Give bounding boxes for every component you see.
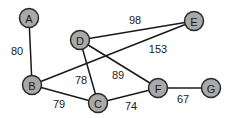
node-label: A <box>25 13 33 25</box>
node-a: A <box>20 9 39 28</box>
edge-weight-label: 67 <box>177 93 189 105</box>
edge-weight-label: 89 <box>112 69 124 81</box>
node-label: E <box>190 16 197 28</box>
edge-weight-label: 79 <box>53 98 65 110</box>
node-e: E <box>185 12 204 31</box>
node-d: D <box>71 31 90 50</box>
node-g: G <box>202 79 221 98</box>
node-f: F <box>149 79 168 98</box>
edge-weight-label: 78 <box>75 74 87 86</box>
node-label: C <box>94 98 102 110</box>
node-b: B <box>23 76 42 95</box>
node-c: C <box>89 94 108 113</box>
edge-weight-label: 153 <box>149 43 167 55</box>
node-label: B <box>28 80 35 92</box>
node-label: D <box>76 35 84 47</box>
edge-weight-label: 80 <box>11 45 23 57</box>
node-label: G <box>207 83 216 95</box>
weighted-graph-diagram: 80981537889797467 ADEBCFG <box>0 0 233 118</box>
edge-weight-label: 98 <box>129 14 141 26</box>
node-label: F <box>155 83 162 95</box>
edge-weight-label: 74 <box>125 100 137 112</box>
